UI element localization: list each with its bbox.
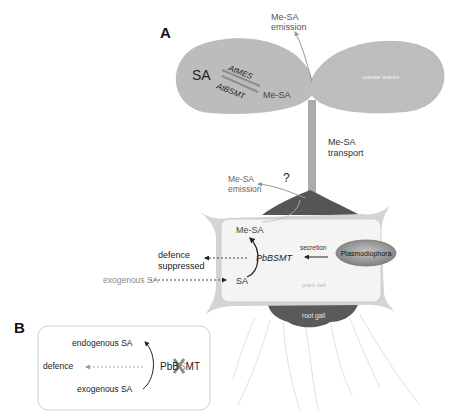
root-emission-line2: emission	[228, 184, 262, 194]
defence-line1: defence	[158, 250, 190, 260]
panel-b-defence: defence	[43, 361, 74, 371]
panel-b-exogenous: exogenous SA	[77, 384, 133, 394]
top-emission-line2: emission	[271, 22, 307, 32]
figure-diagram: A Me-SA emission SA AtMES AtBSMT Me-SA r…	[0, 0, 457, 418]
secretion-label: secretion	[300, 244, 327, 251]
panel-a-label: A	[160, 24, 171, 41]
cell-sa: SA	[236, 276, 248, 286]
panel-b-label: B	[14, 319, 25, 336]
rosette-leaves-label: rosette leaves	[362, 74, 399, 80]
plasmodiophora-label: Plasmodiophora	[341, 250, 392, 258]
plant-cell-label: plant cell	[302, 282, 326, 288]
leaf-sa: SA	[192, 67, 211, 83]
emission-arrow-root	[258, 184, 306, 198]
exogenous-sa-label: exogenous SA	[103, 275, 159, 285]
panel-b-endogenous: endogenous SA	[72, 338, 133, 348]
gall-upper	[262, 190, 360, 215]
root-emission-question: ?	[283, 171, 290, 185]
cell-me-sa: Me-SA	[236, 225, 264, 235]
cell-enzyme-pbbsmt: PbBSMT	[256, 253, 294, 263]
defence-line2: suppressed	[158, 261, 205, 271]
root-gall-label: root gall	[302, 312, 326, 320]
top-emission-line1: Me-SA	[271, 12, 299, 22]
root-emission-line1: Me-SA	[228, 174, 254, 184]
roots	[233, 315, 420, 410]
panel-b-enzyme: PbBSMT	[160, 361, 200, 372]
leaf-me-sa: Me-SA	[263, 90, 291, 100]
transport-line2: transport	[328, 148, 364, 158]
transport-line1: Me-SA	[328, 137, 356, 147]
